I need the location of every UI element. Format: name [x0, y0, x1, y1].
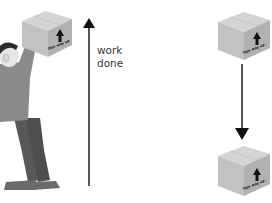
work-label: work — [97, 44, 123, 57]
long-arrow-down-icon — [235, 64, 249, 142]
lifted-box — [22, 9, 74, 59]
long-arrow-up-icon — [83, 18, 95, 188]
done-label: done — [97, 57, 123, 70]
